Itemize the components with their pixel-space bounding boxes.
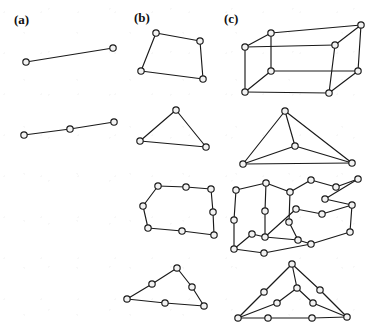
graph-vertex bbox=[287, 189, 293, 195]
graph-vertex bbox=[201, 303, 207, 309]
graph-vertex bbox=[289, 261, 295, 267]
graph-vertex bbox=[231, 217, 237, 223]
graph-vertex bbox=[292, 143, 298, 149]
graph-vertex bbox=[240, 161, 246, 167]
graph-vertex bbox=[332, 42, 338, 48]
graph-vertex bbox=[326, 90, 332, 96]
graph-vertex bbox=[265, 315, 271, 321]
graph-vertex bbox=[124, 296, 130, 302]
graph-vertex bbox=[319, 211, 325, 217]
graph-vertex bbox=[358, 22, 364, 28]
graph-vertex bbox=[110, 45, 116, 51]
graph-vertex bbox=[309, 315, 315, 321]
graph-vertex bbox=[23, 59, 29, 65]
graph-vertex bbox=[145, 225, 151, 231]
graph-vertex bbox=[155, 183, 161, 189]
graph-vertex bbox=[242, 89, 248, 95]
graph-vertex bbox=[262, 234, 268, 240]
graph-vertex bbox=[183, 184, 189, 190]
figure-background bbox=[0, 0, 372, 333]
graph-vertex bbox=[111, 119, 117, 125]
graph-vertex bbox=[263, 180, 269, 186]
graph-vertex bbox=[308, 177, 314, 183]
graph-vertex bbox=[355, 176, 361, 182]
graph-vertex bbox=[211, 232, 217, 238]
graph-vertex bbox=[138, 68, 144, 74]
graph-vertex bbox=[322, 196, 328, 202]
graph-vertex bbox=[21, 132, 27, 138]
panel-label-b: (b) bbox=[134, 10, 150, 25]
graph-vertex bbox=[268, 68, 274, 74]
graph-vertex bbox=[317, 287, 323, 293]
graph-vertex bbox=[282, 108, 288, 114]
graph-vertex bbox=[233, 187, 239, 193]
graph-vertex bbox=[261, 250, 267, 256]
graph-vertex bbox=[140, 203, 146, 209]
graph-vertex bbox=[210, 209, 216, 215]
graph-vertex bbox=[295, 237, 301, 243]
graph-vertex bbox=[189, 284, 195, 290]
graph-vertex bbox=[333, 184, 339, 190]
graph-figure-svg: (a)(b)(c) bbox=[0, 0, 372, 333]
panel-label-a: (a) bbox=[14, 12, 29, 27]
graph-vertex bbox=[149, 281, 155, 287]
figure-container: (a)(b)(c) bbox=[0, 0, 372, 333]
graph-vertex bbox=[203, 144, 209, 150]
graph-vertex bbox=[262, 208, 268, 214]
graph-vertex bbox=[200, 76, 206, 82]
panel-label-c: (c) bbox=[224, 11, 238, 26]
graph-vertex bbox=[286, 219, 292, 225]
graph-vertex bbox=[174, 265, 180, 271]
graph-vertex bbox=[137, 138, 143, 144]
graph-vertex bbox=[67, 126, 73, 132]
graph-vertex bbox=[308, 241, 314, 247]
graph-vertex bbox=[349, 202, 355, 208]
graph-vertex bbox=[355, 68, 361, 74]
graph-vertex bbox=[179, 228, 185, 234]
graph-vertex bbox=[235, 315, 241, 321]
graph-vertex bbox=[349, 160, 355, 166]
graph-vertex bbox=[231, 246, 237, 252]
graph-vertex bbox=[293, 206, 299, 212]
graph-vertex bbox=[162, 300, 168, 306]
graph-vertex bbox=[249, 231, 255, 237]
graph-vertex bbox=[294, 285, 300, 291]
graph-vertex bbox=[153, 30, 159, 36]
graph-vertex bbox=[344, 314, 350, 320]
graph-vertex bbox=[347, 229, 353, 235]
graph-vertex bbox=[274, 300, 280, 306]
graph-vertex bbox=[261, 289, 267, 295]
graph-vertex bbox=[208, 186, 214, 192]
graph-vertex bbox=[268, 30, 274, 36]
graph-vertex bbox=[310, 300, 316, 306]
graph-vertex bbox=[173, 107, 179, 113]
graph-vertex bbox=[197, 38, 203, 44]
graph-vertex bbox=[242, 44, 248, 50]
